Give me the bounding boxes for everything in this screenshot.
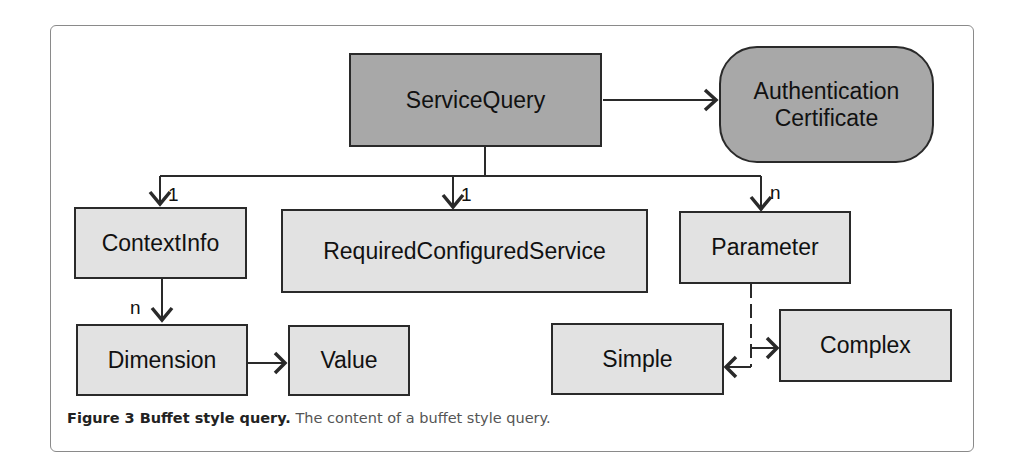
auth-cert-line-2: Certificate	[775, 105, 879, 131]
service-query-label: ServiceQuery	[406, 87, 545, 113]
parameter-node: Parameter	[679, 211, 851, 284]
multiplicity-parameter: n	[770, 182, 781, 204]
authentication-certificate-label: Authentication Certificate	[754, 78, 900, 131]
authentication-certificate-node: Authentication Certificate	[719, 46, 934, 163]
dimension-node: Dimension	[76, 324, 248, 396]
simple-label: Simple	[602, 346, 672, 372]
auth-cert-line-1: Authentication	[754, 78, 900, 104]
parameter-label: Parameter	[711, 234, 818, 260]
dimension-label: Dimension	[108, 347, 217, 373]
complex-label: Complex	[820, 332, 911, 358]
multiplicity-dimension: n	[130, 297, 141, 319]
multiplicity-required-configured-service: 1	[461, 184, 472, 206]
multiplicity-context-info: 1	[168, 184, 179, 206]
value-node: Value	[288, 325, 410, 396]
service-query-node: ServiceQuery	[349, 53, 602, 147]
context-info-node: ContextInfo	[74, 207, 247, 279]
context-info-label: ContextInfo	[102, 230, 220, 256]
caption-label: Figure 3 Buffet style query.	[67, 410, 291, 426]
figure-caption: Figure 3 Buffet style query. The content…	[67, 410, 551, 426]
caption-text: The content of a buffet style query.	[291, 410, 551, 426]
complex-node: Complex	[779, 309, 952, 382]
simple-node: Simple	[551, 323, 724, 395]
required-configured-service-node: RequiredConfiguredService	[281, 209, 648, 293]
required-configured-service-label: RequiredConfiguredService	[323, 238, 606, 264]
value-label: Value	[320, 347, 377, 373]
